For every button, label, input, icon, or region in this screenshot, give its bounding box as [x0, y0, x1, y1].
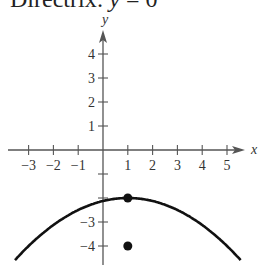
focus-point	[123, 242, 132, 251]
x-tick-label: 4	[199, 158, 206, 173]
y-axis-label: y	[100, 12, 109, 27]
y-tick-label: −4	[80, 239, 95, 254]
plot-area: xy−3−2−1123454321−3−4	[0, 0, 273, 270]
parabola-curve	[15, 198, 241, 260]
x-tick-label: 3	[174, 158, 181, 173]
x-tick-label: 5	[224, 158, 231, 173]
y-tick-label: 3	[88, 71, 95, 86]
vertex-point	[123, 194, 132, 203]
y-tick-label: 1	[88, 119, 95, 134]
y-tick-label: −3	[80, 215, 95, 230]
y-tick-label: 4	[88, 47, 95, 62]
x-axis-label: x	[250, 142, 258, 157]
x-tick-label: 2	[149, 158, 156, 173]
x-tick-label: −1	[71, 158, 86, 173]
y-tick-label: 2	[88, 95, 95, 110]
x-tick-label: 1	[124, 158, 131, 173]
x-tick-label: −3	[21, 158, 36, 173]
x-tick-label: −2	[46, 158, 61, 173]
